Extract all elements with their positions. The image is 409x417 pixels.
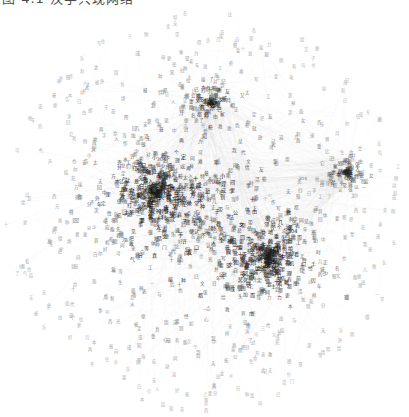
graph-node-label[interactable]: 可 [198,150,203,155]
graph-node-label[interactable]: 己 [133,208,138,213]
graph-node-label[interactable]: 界 [77,323,82,329]
graph-node-label[interactable]: 色 [235,122,240,128]
graph-node-label[interactable]: 中 [378,167,382,174]
graph-node-label[interactable]: 至 [350,232,355,237]
graph-node-label[interactable]: 年 [97,201,102,208]
graph-node-label[interactable]: 接 [78,181,83,188]
graph-node-label[interactable]: 体 [151,240,156,247]
graph-node-label[interactable]: 经 [308,265,313,271]
graph-node-label[interactable]: 力 [250,260,255,267]
graph-node-label[interactable]: 本 [92,339,97,346]
graph-node-label[interactable]: 尔 [210,105,215,111]
graph-node-label[interactable]: 长 [285,223,290,230]
graph-node-label[interactable]: 因 [300,37,304,43]
graph-node-label[interactable]: 夫 [286,188,291,195]
graph-node-label[interactable]: 由 [82,109,86,116]
graph-node-label[interactable]: 回 [66,120,70,126]
graph-node-label[interactable]: 与 [225,204,229,211]
graph-node-label[interactable]: 住 [101,38,106,44]
graph-node-label[interactable]: 些 [208,124,213,130]
graph-node-label[interactable]: 文 [200,280,205,287]
graph-node-label[interactable]: 间 [278,212,283,219]
graph-node-label[interactable]: 东 [49,241,54,247]
graph-node-label[interactable]: 新 [312,234,317,241]
graph-node-label[interactable]: 子 [182,218,187,224]
graph-node-label[interactable]: 已 [77,99,81,104]
graph-node-label[interactable]: 十 [193,175,198,182]
graph-node-label[interactable]: 第 [147,118,152,125]
graph-node-label[interactable]: 者 [75,232,80,238]
graph-node-label[interactable]: 看 [25,258,29,265]
graph-node-label[interactable]: 把 [327,171,332,178]
graph-node-label[interactable]: 美 [383,207,387,214]
graph-node-label[interactable]: 便 [53,102,58,109]
graph-node-label[interactable]: 加 [243,291,248,298]
graph-node-label[interactable]: 已 [194,274,199,279]
graph-node-label[interactable]: 太 [183,174,188,181]
graph-node-label[interactable]: 这 [172,371,177,378]
graph-node-label[interactable]: 便 [315,45,320,52]
graph-node-label[interactable]: 稍 [279,57,284,64]
graph-node-label[interactable]: 外 [295,280,300,287]
graph-node-label[interactable]: 速 [175,227,180,234]
graph-node-label[interactable]: 花 [111,108,116,115]
graph-node-label[interactable]: 对 [186,199,191,205]
graph-node-label[interactable]: 太 [156,223,161,231]
graph-node-label[interactable]: 支 [173,20,178,27]
graph-node-label[interactable]: 它 [249,283,254,289]
graph-node-label[interactable]: 力 [277,294,282,301]
graph-node-label[interactable]: 德 [58,235,63,242]
graph-node-label[interactable]: 由 [252,208,257,215]
graph-node-label[interactable]: 理 [175,158,180,163]
graph-node-label[interactable]: 自 [233,267,238,274]
graph-node-label[interactable]: 学 [380,296,384,302]
graph-node-label[interactable]: 后 [114,211,119,218]
graph-node-label[interactable]: 也 [27,266,31,272]
graph-node-label[interactable]: 直 [177,211,182,217]
graph-node-label[interactable]: 受 [203,128,208,135]
graph-node-label[interactable]: 月 [335,131,339,137]
graph-node-label[interactable]: 些 [262,176,267,182]
graph-node-label[interactable]: 事 [98,307,103,314]
graph-node-label[interactable]: 电 [289,74,294,80]
graph-node-label[interactable]: 个 [241,47,246,52]
graph-node-label[interactable]: 后 [170,281,175,288]
graph-node-label[interactable]: 从 [139,204,144,209]
graph-node-label[interactable]: 个 [174,150,179,155]
graph-node-label[interactable]: 不 [90,362,94,368]
graph-node-label[interactable]: 由 [213,113,218,120]
graph-node-label[interactable]: 难 [21,263,25,270]
graph-node-label[interactable]: 马 [301,62,305,69]
graph-node-label[interactable]: 进 [361,279,366,286]
graph-node-label[interactable]: 于 [104,105,109,110]
graph-node-label[interactable]: 文 [336,272,341,279]
graph-node-label[interactable]: 的 [354,207,358,214]
graph-node-label[interactable]: 命 [253,355,258,362]
graph-node-label[interactable]: 稍 [394,175,398,182]
graph-node-label[interactable]: 再 [179,137,184,144]
graph-node-label[interactable]: 性 [107,210,112,217]
graph-node-label[interactable]: 特 [169,210,174,216]
graph-node-label[interactable]: 重 [358,145,362,151]
graph-node-label[interactable]: 张 [203,289,208,296]
graph-node-label[interactable]: 老 [140,209,145,215]
graph-node-label[interactable]: 一 [375,292,379,297]
graph-node-label[interactable]: 斯 [143,178,148,186]
graph-node-label[interactable]: 问 [184,250,189,257]
graph-node-label[interactable]: 重 [151,333,156,339]
graph-node-label[interactable]: 现 [169,406,173,412]
graph-node-label[interactable]: 结 [161,401,165,408]
graph-node-label[interactable]: 物 [144,31,148,38]
graph-node-label[interactable]: 马 [254,331,258,338]
graph-node-label[interactable]: 乐 [80,55,84,61]
graph-node-label[interactable]: 和 [274,160,279,167]
graph-node-label[interactable]: 手 [285,256,290,263]
graph-node-label[interactable]: 神 [189,163,194,170]
graph-node-label[interactable]: 神 [291,100,295,107]
graph-node-label[interactable]: 写 [97,41,101,47]
graph-node-label[interactable]: 口 [192,89,196,94]
graph-node-label[interactable]: 并 [214,266,219,273]
graph-node-label[interactable]: 到 [220,194,225,200]
graph-node-label[interactable]: 如 [322,85,326,92]
graph-node-label[interactable]: 名 [252,27,256,34]
